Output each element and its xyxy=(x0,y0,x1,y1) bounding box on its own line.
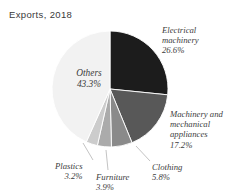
slice-label-plastics: Plastics 3.2% xyxy=(55,161,83,181)
leader-line-plastics xyxy=(83,143,93,160)
leader-line-clothing xyxy=(136,146,150,161)
leader-line-furniture xyxy=(106,150,108,170)
slice-label-clothing: Clothing 5.8% xyxy=(152,162,182,182)
slice-label-furniture: Furniture 3.9% xyxy=(96,172,129,192)
slice-label-others: Others 43.3% xyxy=(58,68,120,90)
pie-chart-figure: Exports, 2018 Electrical machinery 26.6%… xyxy=(0,0,247,195)
slice-label-electrical-machinery: Electrical machinery 26.6% xyxy=(162,25,199,56)
pie-svg xyxy=(0,0,247,195)
slice-label-machinery-and-mechanical-appliances: Machinery and mechanical appliances 17.2… xyxy=(170,109,223,150)
